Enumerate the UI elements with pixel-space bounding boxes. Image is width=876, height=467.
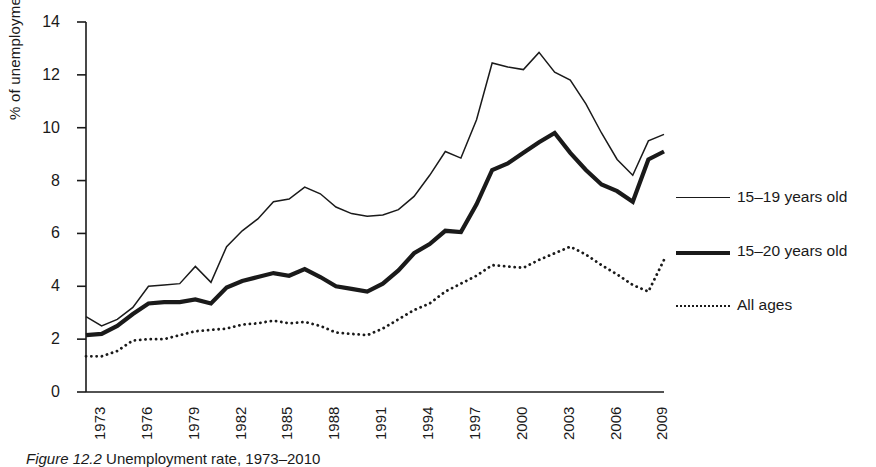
chart-legend: 15–19 years old15–20 years oldAll ages <box>676 186 876 348</box>
legend-label: 15–20 years old <box>737 242 847 260</box>
x-tick-label: 2009 <box>654 407 669 440</box>
x-tick-label: 2000 <box>514 407 529 440</box>
x-tick-label: 1973 <box>92 407 107 440</box>
x-tick-label: 1982 <box>233 407 248 440</box>
x-tick-label: 1997 <box>467 407 482 440</box>
x-tick-label: 2006 <box>608 407 623 440</box>
x-tick-label: 1979 <box>186 407 201 440</box>
x-tick-label: 2003 <box>561 407 576 440</box>
x-tick-label: 1991 <box>373 407 388 440</box>
x-tick-label: 1988 <box>326 407 341 440</box>
figure-caption: Figure 12.2 Unemployment rate, 1973–2010 <box>26 450 320 467</box>
legend-label: 15–19 years old <box>737 188 847 206</box>
legend-swatch-icon <box>676 299 730 311</box>
legend-item: 15–19 years old <box>676 186 876 208</box>
legend-label: All ages <box>737 296 792 314</box>
legend-swatch-icon <box>676 191 730 203</box>
x-tick-label: 1976 <box>139 407 154 440</box>
legend-item: 15–20 years old <box>676 240 876 262</box>
legend-swatch-icon <box>676 245 730 257</box>
x-tick-label: 1985 <box>279 407 294 440</box>
legend-item: All ages <box>676 294 876 316</box>
caption-number: Figure 12.2 <box>26 450 102 467</box>
x-tick-label: 1994 <box>420 407 435 440</box>
caption-text: Unemployment rate, 1973–2010 <box>102 450 320 467</box>
